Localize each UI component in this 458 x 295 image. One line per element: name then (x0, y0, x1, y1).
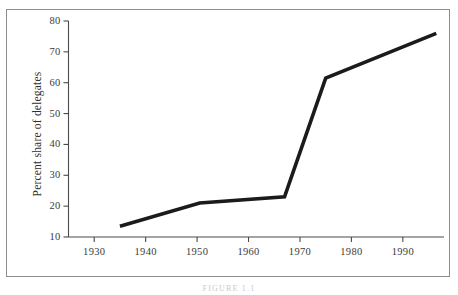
figure-caption: FIGURE 1.1 (0, 284, 458, 295)
y-axis-title: Percent share of delegates (31, 39, 43, 229)
y-tick-label: 80 (23, 16, 61, 27)
y-tick-label: 10 (23, 232, 61, 243)
x-tick-label: 1950 (186, 247, 208, 258)
y-tick-marks (64, 21, 69, 237)
x-tick-label: 1990 (392, 247, 414, 258)
x-tick-label: 1970 (289, 247, 311, 258)
data-series-group (120, 33, 436, 226)
x-tick-label: 1930 (83, 247, 105, 258)
x-tick-label: 1960 (237, 247, 259, 258)
figure-root: 1020304050607080 19301940195019601970198… (0, 0, 458, 295)
x-tick-label: 1980 (340, 247, 362, 258)
line-chart-canvas (0, 0, 458, 295)
delegate-share-line (120, 33, 436, 226)
x-tick-marks (94, 237, 403, 242)
x-tick-label: 1940 (135, 247, 157, 258)
